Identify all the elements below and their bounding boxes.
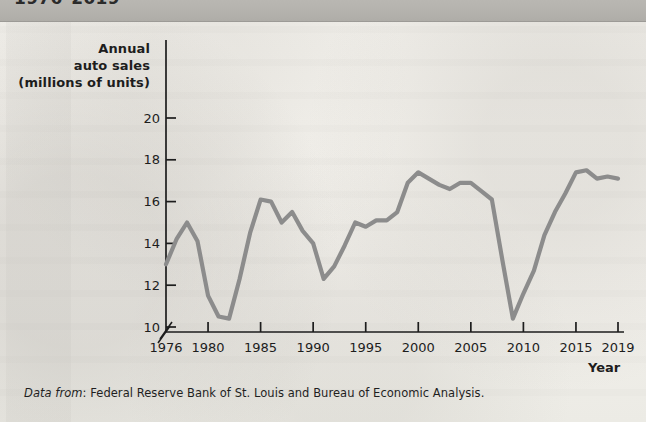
source-note-prefix: Data from — [24, 386, 83, 400]
source-note-text: : Federal Reserve Bank of St. Louis and … — [83, 386, 485, 400]
y-tick-label: 14 — [143, 236, 160, 251]
x-tick-group: 1976198019851990199520002005201020152019 — [149, 322, 634, 355]
y-tick-label: 16 — [143, 194, 160, 209]
data-series-line — [166, 170, 618, 318]
x-tick-label: 1976 — [149, 340, 182, 355]
x-tick-label: 2005 — [454, 340, 487, 355]
line-chart: 101214161820 197619801985199019952000200… — [0, 22, 646, 422]
x-tick-label: 2000 — [402, 340, 435, 355]
source-note: Data from: Federal Reserve Bank of St. L… — [24, 386, 484, 400]
x-tick-label: 1980 — [191, 340, 224, 355]
y-tick-label: 20 — [143, 111, 160, 126]
x-tick-label: 1985 — [244, 340, 277, 355]
y-tick-group: 101214161820 — [143, 111, 176, 335]
figure-body: Annual auto sales (millions of units) 10… — [0, 22, 646, 422]
x-tick-label: 1990 — [297, 340, 330, 355]
y-tick-label: 18 — [143, 152, 160, 167]
x-tick-label: 2015 — [559, 340, 592, 355]
y-tick-label: 12 — [143, 278, 160, 293]
chart-axes — [158, 40, 624, 343]
x-tick-label: 1995 — [349, 340, 382, 355]
figure-title: 1976–2019 — [14, 0, 120, 8]
figure-header-band: 1976–2019 — [0, 0, 646, 22]
x-axis-label: Year — [588, 360, 620, 375]
x-tick-label: 2010 — [507, 340, 540, 355]
x-tick-label: 2019 — [601, 340, 634, 355]
y-tick-label: 10 — [143, 320, 160, 335]
